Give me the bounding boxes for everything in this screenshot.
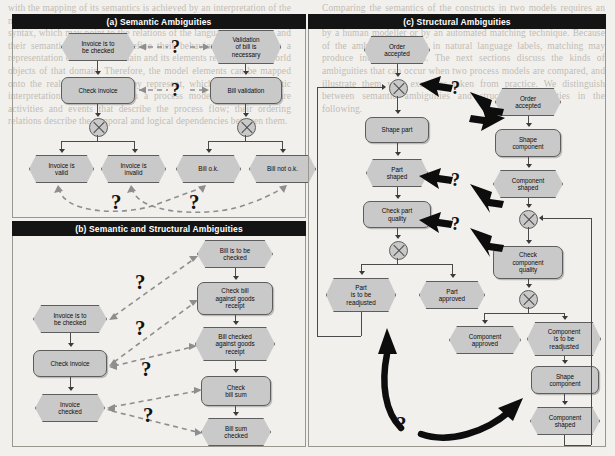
- ambiguity-marker-c3: ?: [451, 215, 460, 233]
- ambiguity-marker-a3: ?: [111, 192, 122, 213]
- ambiguity-marker-b2: ?: [135, 318, 146, 339]
- panel-b-body: Invoice is to be checked Check invoice I…: [13, 235, 305, 446]
- ambiguity-marker-a1: ?: [171, 38, 180, 56]
- figure: (a) Semantic Ambiguities Invoice is to b…: [0, 0, 615, 456]
- ambiguity-marker-a2: ?: [171, 81, 180, 99]
- panel-a: (a) Semantic Ambiguities Invoice is to b…: [12, 14, 306, 218]
- panel-c-title: (c) Structural Ambiguities: [309, 15, 605, 28]
- panel-a-ambiguity-links: [13, 28, 305, 217]
- ambiguity-marker-b3: ?: [141, 359, 152, 380]
- ambiguity-marker-a4: ?: [189, 192, 200, 213]
- ambiguity-marker-b1: ?: [135, 272, 146, 293]
- ambiguity-marker-c1: ?: [451, 79, 460, 97]
- panel-a-body: Invoice is to be checked Check invoice I…: [13, 28, 305, 217]
- panel-a-title: (a) Semantic Ambiguities: [13, 15, 305, 28]
- panel-b-ambiguity-links: [13, 235, 305, 446]
- panel-c: (c) Structural Ambiguities Order accepte…: [308, 14, 606, 447]
- ambiguity-marker-b4: ?: [143, 405, 154, 426]
- ambiguity-marker-c2: ?: [451, 171, 460, 189]
- ambiguity-marker-c4: ?: [396, 414, 407, 435]
- panel-b: (b) Semantic and Structural Ambiguities …: [12, 221, 306, 447]
- panel-b-title: (b) Semantic and Structural Ambiguities: [13, 222, 305, 235]
- panel-c-body: Order accepted Shape part Part shaped Ch…: [309, 28, 605, 446]
